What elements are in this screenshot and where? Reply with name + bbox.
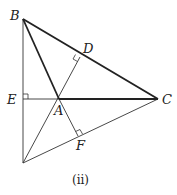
label-A: A [53, 103, 63, 118]
segment-B-C [23, 19, 158, 99]
segment-B-A [23, 19, 59, 99]
label-E: E [6, 92, 17, 107]
right-angle-mark-E [23, 94, 28, 99]
geometry-diagram: B D E A C F (ii) [0, 0, 177, 195]
label-B: B [9, 8, 20, 23]
segment-bottom-C [23, 99, 158, 163]
label-D: D [82, 41, 94, 56]
label-F: F [75, 138, 86, 153]
segment-bottom-D [23, 57, 80, 163]
figure-caption: (ii) [72, 173, 89, 187]
label-C: C [162, 92, 172, 107]
right-angle-mark-D [73, 55, 78, 62]
